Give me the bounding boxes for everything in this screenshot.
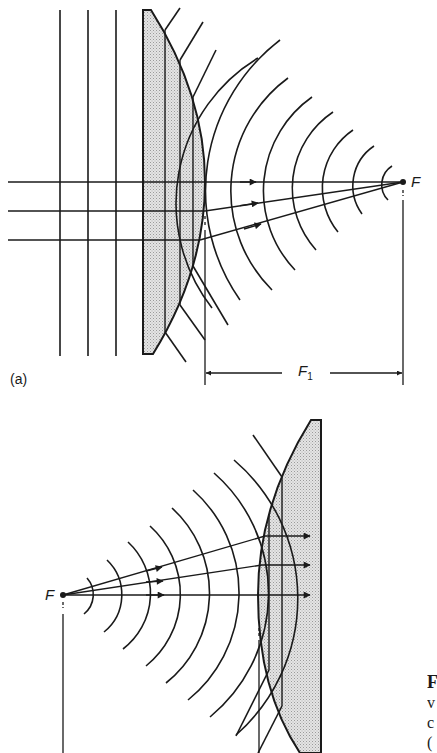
focal-length-subscript: 1 (307, 371, 313, 382)
focal-length-dimension-a (205, 190, 403, 385)
focal-point-b (60, 592, 66, 598)
plano-convex-lens-b (258, 420, 321, 753)
caption-line-2: v (427, 693, 437, 713)
panel-b (60, 420, 321, 753)
focal-length-label-a: F1 (298, 362, 313, 382)
plane-wavefronts-a (60, 10, 116, 356)
caption-line-1: F (427, 671, 437, 693)
panel-label-a: (a) (10, 371, 27, 387)
focus-label-a: F (411, 173, 420, 190)
focal-length-symbol: F (298, 362, 307, 379)
caption-line-4: ( (427, 733, 437, 753)
panel-a (8, 8, 406, 385)
focal-length-dimension-b (63, 602, 259, 753)
caption-fragment: F v c ( (427, 671, 437, 753)
focus-label-b: F (45, 586, 54, 603)
caption-line-3: c (427, 713, 437, 733)
focal-point-a (400, 179, 406, 185)
